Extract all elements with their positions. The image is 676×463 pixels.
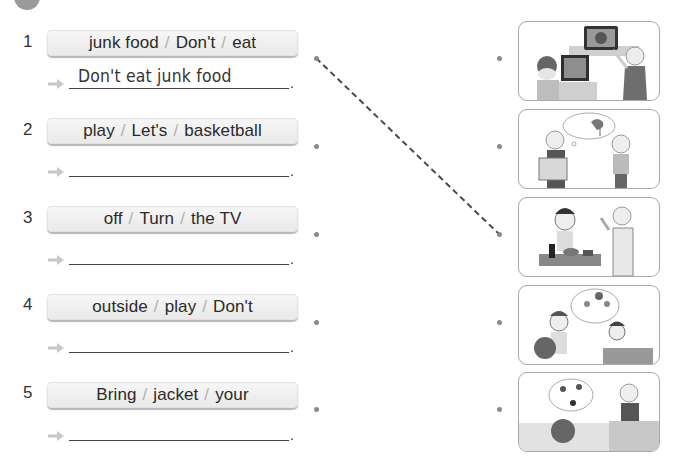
word-separator: / [129, 209, 134, 229]
word: jacket [153, 385, 198, 405]
boy-basketball-illustration [519, 286, 659, 364]
picture-frame-5[interactable] [518, 372, 660, 452]
match-dot-right-3[interactable] [497, 232, 502, 237]
match-dot-right-1[interactable] [497, 56, 502, 61]
match-dot-left-3[interactable] [314, 232, 319, 237]
answer-input[interactable]: Don't eat junk food [78, 66, 232, 86]
sentence-period: . [290, 339, 294, 355]
boy-computer-tv-illustration [519, 22, 659, 100]
word-separator: / [165, 33, 170, 53]
sentence-period: . [290, 251, 294, 267]
word-separator: / [180, 209, 185, 229]
word: Let's [132, 121, 168, 141]
item-number: 5 [23, 383, 32, 403]
sentence-period: . [290, 75, 294, 91]
word: Don't [213, 297, 253, 317]
item-number: 4 [23, 295, 32, 315]
match-dot-right-5[interactable] [497, 407, 502, 412]
item-number: 1 [23, 32, 32, 52]
answer-underline [69, 264, 289, 265]
picture-frame-2[interactable] [518, 109, 660, 189]
scrambled-words-box: off / Turn / the TV [47, 206, 298, 232]
word: Turn [139, 209, 174, 229]
arrow-right-icon [47, 430, 65, 442]
word: Don't [176, 33, 216, 53]
match-dot-right-2[interactable] [497, 144, 502, 149]
scrambled-words-box: play / Let's / basketball [47, 118, 298, 144]
boy-junkfood-woman-illustration [519, 198, 659, 276]
exercise-number-badge-icon [14, 0, 40, 10]
picture-frame-3[interactable] [518, 197, 660, 277]
picture-frame-1[interactable] [518, 21, 660, 101]
woman-jacket-boy-illustration [519, 110, 659, 188]
match-dot-left-4[interactable] [314, 320, 319, 325]
word: play [83, 121, 115, 141]
word: junk food [89, 33, 159, 53]
word: eat [232, 33, 256, 53]
match-dot-left-5[interactable] [314, 407, 319, 412]
match-dot-right-4[interactable] [497, 320, 502, 325]
arrow-right-icon [47, 78, 65, 90]
arrow-right-icon [47, 342, 65, 354]
word-separator: / [154, 297, 159, 317]
answer-underline [69, 440, 289, 441]
answer-underline [69, 352, 289, 353]
word: the TV [191, 209, 241, 229]
scrambled-words-box: outside / play / Don't [47, 294, 298, 320]
word: play [165, 297, 197, 317]
match-dot-left-1[interactable] [314, 56, 319, 61]
word-separator: / [143, 385, 148, 405]
scrambled-words-box: Bring / jacket / your [47, 382, 298, 408]
word-separator: / [221, 33, 226, 53]
sentence-period: . [290, 163, 294, 179]
item-number: 3 [23, 208, 32, 228]
child-bed-woman-illustration [519, 373, 659, 451]
arrow-right-icon [47, 254, 65, 266]
word: Bring [96, 385, 136, 405]
scrambled-words-box: junk food / Don't / eat [47, 30, 298, 56]
sentence-period: . [290, 427, 294, 443]
arrow-right-icon [47, 166, 65, 178]
word-separator: / [204, 385, 209, 405]
word: your [215, 385, 248, 405]
word-separator: / [121, 121, 126, 141]
word-separator: / [202, 297, 207, 317]
answer-underline [69, 176, 289, 177]
word: outside [92, 297, 148, 317]
word-separator: / [173, 121, 178, 141]
word: basketball [184, 121, 262, 141]
picture-frame-4[interactable] [518, 285, 660, 365]
item-number: 2 [23, 120, 32, 140]
word: off [104, 209, 123, 229]
answer-underline [69, 88, 289, 89]
match-dot-left-2[interactable] [314, 144, 319, 149]
